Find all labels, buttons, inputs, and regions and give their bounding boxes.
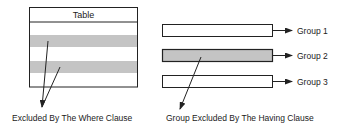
table-row-excluded	[30, 35, 138, 47]
table-row	[30, 47, 138, 61]
table-row	[30, 22, 138, 35]
group-1-label: Group 1	[297, 26, 328, 36]
where-having-diagram: Table Excluded By The Where Clause Group…	[0, 0, 348, 130]
table-row	[30, 73, 138, 87]
group-3-bar	[163, 76, 273, 88]
group-1-bar	[163, 25, 273, 37]
table-title: Table	[73, 10, 95, 20]
groups: Group 1 Group 2 Group 3	[163, 25, 328, 88]
table: Table	[30, 8, 138, 88]
group-3-label: Group 3	[297, 77, 328, 87]
having-clause-label: Group Excluded By The Having Clause	[166, 113, 314, 123]
where-clause-label: Excluded By The Where Clause	[12, 113, 133, 123]
group-2-bar	[163, 50, 273, 62]
group-2-label: Group 2	[297, 51, 328, 61]
